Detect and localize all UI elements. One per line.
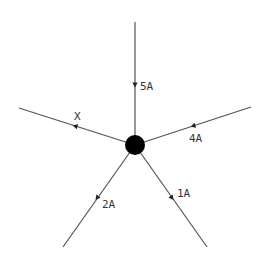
diagram-canvas: 5AX4A2A1A xyxy=(0,0,271,261)
current-label-right: 4A xyxy=(189,132,203,145)
junction-node xyxy=(125,135,145,155)
branch-lines xyxy=(19,22,251,247)
current-label-lower-left: 2A xyxy=(102,198,116,211)
kirchhoff-junction-diagram: 5AX4A2A1A xyxy=(0,0,271,261)
arrow-icon-top xyxy=(132,83,137,88)
current-label-lower-right: 1A xyxy=(177,187,191,200)
branch-line-lower-left xyxy=(63,145,135,247)
current-label-top: 5A xyxy=(140,80,154,93)
current-label-left: X xyxy=(74,110,81,123)
